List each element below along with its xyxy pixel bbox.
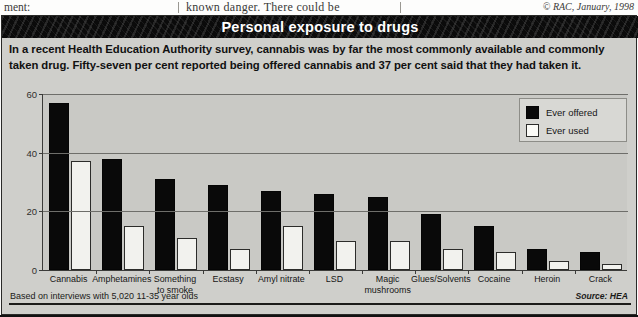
bar-ever-offered [421, 214, 441, 270]
y-tick-mark-60 [39, 94, 43, 95]
footer-rule [9, 303, 631, 305]
column-text-left: ment: [4, 1, 30, 13]
bar-ever-offered [102, 159, 122, 270]
legend-label-ever-offered: Ever offered [546, 107, 598, 118]
bar-ever-offered [208, 185, 228, 270]
bar-ever-used [496, 252, 516, 270]
page-top-text-strip: ment: known danger. There could be © RAC… [0, 0, 638, 15]
bar-group [96, 94, 149, 270]
bar-ever-used [549, 261, 569, 270]
plot-area: 0204060 CannabisAmphetaminesSomething to… [9, 78, 631, 291]
y-tick-mark-20 [39, 211, 43, 212]
bar-ever-used [177, 238, 197, 270]
chart-intro-text: In a recent Health Education Authority s… [9, 42, 631, 73]
bar-group [468, 94, 521, 270]
bar-group [415, 94, 468, 270]
bar-ever-used [390, 241, 410, 270]
bar-ever-used [71, 161, 91, 270]
gridline-60 [43, 94, 628, 95]
bar-ever-offered [49, 103, 69, 270]
bar-ever-used [602, 264, 622, 270]
chart-footnote: Based on interviews with 5,020 11-35 yea… [10, 291, 198, 301]
y-tick-mark-40 [39, 153, 43, 154]
gridline-20 [43, 211, 628, 212]
bar-ever-offered [155, 179, 175, 270]
bar-group [256, 94, 309, 270]
bar-ever-used [283, 226, 303, 270]
x-axis-label: Crack [566, 274, 635, 285]
bar-ever-offered [580, 252, 600, 270]
bar-ever-offered [527, 249, 547, 270]
copyright-text: © RAC, January, 1998 [543, 1, 634, 12]
bar-group [43, 94, 96, 270]
bar-ever-offered [314, 194, 334, 270]
page: ment: known danger. There could be © RAC… [0, 0, 638, 317]
bar-group [203, 94, 256, 270]
legend-swatch-ever-used [526, 124, 539, 137]
chart-legend: Ever offered Ever used [519, 98, 627, 142]
chart-source: Source: HEA [575, 291, 628, 301]
gridline-40 [43, 153, 628, 154]
column-rule-right [400, 2, 401, 13]
bar-ever-offered [261, 191, 281, 270]
bar-group [149, 94, 202, 270]
bar-ever-used [336, 241, 356, 270]
bar-ever-used [230, 249, 250, 270]
legend-entry-offered: Ever offered [526, 104, 620, 120]
bar-ever-offered [474, 226, 494, 270]
legend-entry-used: Ever used [526, 122, 620, 138]
bar-ever-used [443, 249, 463, 270]
column-rule-left [178, 2, 179, 13]
legend-label-ever-used: Ever used [546, 125, 589, 136]
y-tick-mark-0 [39, 270, 43, 271]
column-text-middle: known danger. There could be [186, 0, 340, 15]
bar-group [362, 94, 415, 270]
chart-title-bar: Personal exposure to drugs [2, 16, 638, 38]
legend-swatch-ever-offered [526, 106, 539, 119]
chart-title: Personal exposure to drugs [222, 19, 419, 35]
bar-ever-offered [368, 197, 388, 270]
bar-group [309, 94, 362, 270]
bar-ever-used [124, 226, 144, 270]
chart-figure: Personal exposure to drugs In a recent H… [1, 15, 637, 315]
